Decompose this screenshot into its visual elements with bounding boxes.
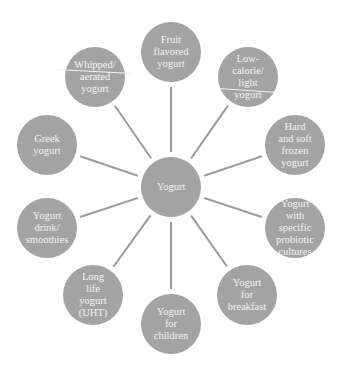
- node-label: Yogurt with specific probiotic cultures: [276, 198, 314, 258]
- node-probiotic-yogurt: Yogurt with specific probiotic cultures: [265, 198, 325, 258]
- node-long-life-yogurt-uht: Long life yogurt (UHT): [63, 265, 123, 325]
- node-hard-soft-frozen-yogurt: Hard and soft frozen yogurt: [265, 115, 325, 175]
- spoke-line-long-life: [113, 215, 150, 266]
- node-label: Yogurt for breakfast: [228, 277, 266, 313]
- spoke-line-probiotic: [204, 198, 262, 217]
- node-label: Yogurt for children: [154, 306, 188, 342]
- node-label: Whipped/ aerated yogurt: [74, 59, 115, 95]
- node-fruit-flavored-yogurt: Fruit flavored yogurt: [141, 22, 201, 82]
- node-yogurt-for-breakfast: Yogurt for breakfast: [217, 265, 277, 325]
- center-label: Yogurt: [157, 181, 186, 193]
- node-label: Fruit flavored yogurt: [154, 34, 189, 70]
- node-label: Low- calorie/ light yogurt: [232, 53, 263, 101]
- node-yogurt-drink-smoothies: Yogurt drink/ smoothies: [17, 198, 77, 258]
- center-node-yogurt: Yogurt: [141, 157, 201, 217]
- node-yogurt-for-children: Yogurt for children: [141, 294, 201, 354]
- node-low-calorie-light-yogurt: Low- calorie/ light yogurt: [218, 47, 278, 107]
- node-greek-yogurt: Greek yogurt: [17, 115, 77, 175]
- node-label: Greek yogurt: [33, 133, 60, 157]
- spoke-line-breakfast: [191, 216, 227, 267]
- spoke-line-frozen: [204, 156, 262, 176]
- node-label: Hard and soft frozen yogurt: [278, 121, 312, 169]
- spoke-line-low-calorie: [191, 106, 228, 159]
- spoke-line-drink: [80, 198, 138, 217]
- node-whipped-aerated-yogurt: Whipped/ aerated yogurt: [65, 47, 125, 107]
- spoke-line-greek: [80, 156, 138, 176]
- spoke-line-whipped: [115, 106, 151, 158]
- node-label: Yogurt drink/ smoothies: [26, 210, 69, 246]
- node-label: Long life yogurt (UHT): [79, 271, 108, 319]
